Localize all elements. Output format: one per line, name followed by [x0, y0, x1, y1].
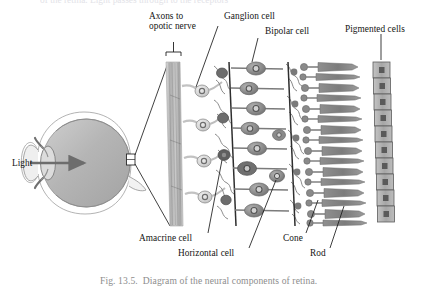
rod-cell	[307, 220, 367, 226]
rod-cell	[301, 95, 361, 102]
pigmented-cell	[373, 62, 390, 78]
pigmented-cell	[376, 158, 393, 174]
label-horizontal-cell: Horizontal cell	[178, 248, 234, 258]
figure-canvas	[0, 0, 421, 286]
label-light: Light	[12, 158, 32, 168]
bipolar-cell	[233, 142, 287, 155]
cone-cell	[304, 147, 362, 156]
synaptic-knob	[293, 135, 300, 142]
synaptic-knobs	[291, 69, 302, 210]
horizontal-cell-nucleus	[274, 173, 279, 178]
leader-detail-top	[135, 63, 168, 155]
pigmented-cell	[377, 190, 394, 206]
ganglion-cell-layer	[182, 82, 225, 203]
rod-cell	[300, 74, 360, 81]
rod-cell	[302, 116, 362, 123]
label-cone: Cone	[283, 233, 303, 243]
photoreceptor-layer	[300, 63, 367, 227]
pigmented-cell	[374, 78, 391, 94]
synaptic-knob	[292, 101, 299, 108]
rod-cell	[306, 200, 366, 207]
pigmented-cell	[377, 174, 394, 190]
bipolar-cell	[231, 82, 284, 94]
ganglion-cell	[182, 82, 222, 97]
label-axons: Axons toopotic nerve	[149, 11, 196, 31]
label-axons-line2: opotic nerve	[149, 21, 196, 31]
rod-cell	[303, 137, 363, 144]
amacrine-cell	[218, 113, 229, 123]
rod-cell	[304, 158, 364, 165]
clipped-top-text: of the retina. Light passes through to t…	[40, 0, 380, 5]
cone-cell	[306, 189, 364, 198]
pigmented-cell	[378, 206, 395, 222]
cone-cell	[300, 63, 358, 72]
eye-diagram	[21, 112, 146, 214]
ganglion-cell	[185, 188, 225, 203]
horizontal-cells	[270, 130, 286, 182]
figure-caption: Fig. 13.5. Diagram of the neural compone…	[100, 275, 317, 286]
amacrine-cell	[221, 195, 231, 205]
cone-cell	[302, 105, 360, 114]
amacrine-nucleus	[222, 153, 226, 157]
leader-detail-bottom	[135, 164, 170, 226]
pigmented-cell	[375, 110, 392, 126]
amacrine-cell	[217, 68, 228, 78]
bipolar-cell	[232, 102, 285, 115]
bipolar-cell	[231, 62, 283, 75]
cone-cell	[303, 126, 361, 135]
axon-bundle	[166, 42, 183, 226]
pigmented-cell	[376, 142, 393, 158]
leader-bipolar	[252, 38, 258, 62]
label-ganglion-cell: Ganglion cell	[224, 11, 275, 21]
synaptic-knob	[294, 169, 301, 176]
synaptic-knob	[295, 203, 302, 210]
horizontal-cell-nucleus	[277, 133, 281, 137]
label-rod: Rod	[310, 248, 326, 258]
label-pigmented-cells: Pigmented cells	[345, 24, 405, 34]
rod-cell	[305, 179, 365, 186]
cone-cell	[301, 84, 359, 93]
axon-bracket	[166, 52, 181, 56]
bipolar-cell	[234, 183, 288, 196]
retina-figure	[0, 0, 421, 286]
label-axons-line1: Axons to	[149, 11, 183, 21]
cone-cell	[305, 168, 363, 177]
label-amacrine-cell: Amacrine cell	[139, 233, 192, 243]
ganglion-cell	[183, 116, 223, 131]
label-bipolar-cell: Bipolar cell	[265, 26, 309, 36]
magnification-leaders	[135, 63, 170, 226]
pigmented-cell	[374, 94, 391, 110]
cone-cell	[307, 210, 365, 219]
leader-ganglion	[196, 26, 218, 87]
synaptic-knob	[291, 69, 298, 76]
pigmented-cell	[375, 126, 392, 142]
pigmented-cell-layer	[373, 62, 395, 222]
